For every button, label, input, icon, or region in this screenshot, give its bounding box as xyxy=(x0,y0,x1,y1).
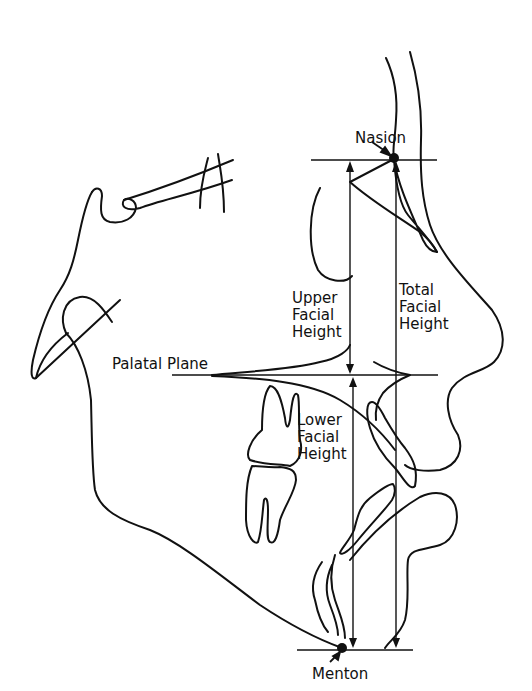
mandible-border xyxy=(66,333,342,648)
lower-incisor xyxy=(340,484,395,554)
anterior-nasal-spine xyxy=(374,362,410,420)
symphysis-inner-1 xyxy=(313,562,328,632)
upper-facial-height-label: Upper Facial Height xyxy=(292,290,342,341)
symphysis-outer xyxy=(331,555,345,638)
tracing-drawing xyxy=(0,0,532,691)
tfh-word-2: Facial xyxy=(399,299,449,316)
frontonasal-line xyxy=(350,160,437,252)
nasal-bone xyxy=(394,160,437,252)
arrowhead-ufh-bottom xyxy=(346,364,354,374)
arrowhead-tfh-bottom xyxy=(392,638,400,648)
menton-point xyxy=(337,643,347,653)
lfh-word-2: Facial xyxy=(297,429,347,446)
lfh-word-1: Lower xyxy=(297,412,347,429)
soft-tissue-forehead xyxy=(405,52,503,471)
lower-molar xyxy=(246,466,296,543)
menton-label: Menton xyxy=(312,666,368,683)
sella-outline xyxy=(92,180,232,222)
tfh-word-3: Height xyxy=(399,316,449,333)
lfh-word-3: Height xyxy=(297,446,347,463)
lower-facial-height-label: Lower Facial Height xyxy=(297,412,347,463)
sn-line-upper xyxy=(124,160,233,200)
arrowhead-ufh-top xyxy=(346,161,354,172)
ufh-word-1: Upper xyxy=(292,290,342,307)
upper-molar xyxy=(248,386,301,466)
arrowhead-lfh-bottom xyxy=(349,638,357,648)
cranial-base-outline xyxy=(32,192,92,378)
ufh-word-3: Height xyxy=(292,324,342,341)
nasion-label: Nasion xyxy=(355,130,406,147)
symphysis-inner-2 xyxy=(327,565,338,635)
tfh-word-1: Total xyxy=(399,282,449,299)
chin-soft-tissue xyxy=(350,493,457,648)
palatal-plane-label: Palatal Plane xyxy=(112,356,208,373)
total-facial-height-label: Total Facial Height xyxy=(399,282,449,333)
pterygoid-1 xyxy=(200,158,208,208)
orbit-curve xyxy=(311,188,352,281)
arrowhead-lfh-top xyxy=(349,377,357,387)
palate-upper-curve xyxy=(212,345,350,375)
cephalometric-diagram: Nasion Palatal Plane Menton Upper Facial… xyxy=(0,0,532,691)
ufh-word-2: Facial xyxy=(292,307,342,324)
